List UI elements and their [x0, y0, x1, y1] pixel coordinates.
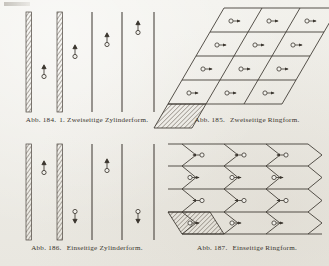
hatched-band	[57, 12, 63, 112]
figure-abb-184: Abb. 184.1.Zweiseitige Zylinderform.	[8, 10, 166, 118]
cell-marker-right	[215, 43, 226, 47]
cell-marker-right	[230, 175, 241, 179]
figure-caption-abb-187: Abb. 187.Einseitige Ringform.	[168, 245, 326, 252]
cell-marker-right	[239, 67, 250, 71]
hatched-band	[26, 144, 32, 240]
figure-title: Einseitige Ringform.	[232, 244, 297, 252]
cell-marker-right	[188, 175, 199, 179]
cell-marker-right	[263, 91, 274, 95]
flow-marker-down	[136, 209, 140, 223]
cell-marker-right	[277, 67, 288, 71]
figure-number: Abb. 187.	[197, 244, 227, 252]
figure-caption-abb-184: Abb. 184.1.Zweiseitige Zylinderform.	[8, 117, 166, 124]
cell-marker-right	[187, 91, 198, 95]
figure-title: Zweiseitige Ringform.	[230, 116, 299, 124]
figure-caption-abb-186: Abb. 186.Einseitige Zylinderform.	[8, 245, 166, 252]
hatched-band	[26, 12, 32, 112]
figure-number: Abb. 185.	[195, 116, 225, 124]
cell-marker-right	[291, 43, 302, 47]
flow-marker-up	[73, 45, 77, 59]
cell-marker-right	[253, 43, 264, 47]
cell-marker-right	[305, 19, 316, 23]
figure-caption-abb-185: Abb. 185.Zweiseitige Ringform.	[168, 117, 326, 124]
cell-marker-right	[267, 19, 278, 23]
cell-marker-group	[187, 19, 316, 95]
cell-marker-right	[225, 91, 236, 95]
figure-abb-186: Abb. 186.Einseitige Zylinderform.	[8, 142, 166, 250]
abb-185-drawing	[168, 8, 326, 118]
figure-number: Abb. 186.	[31, 244, 61, 252]
figure-index: 1.	[59, 116, 65, 124]
flow-marker-up	[42, 65, 46, 79]
hatched-band	[57, 144, 63, 240]
grid-lines	[168, 8, 329, 104]
scan-artifact	[4, 2, 30, 6]
figure-abb-187: Abb. 187.Einseitige Ringform.	[168, 140, 326, 252]
figure-abb-185: Abb. 185.Zweiseitige Ringform.	[168, 8, 326, 120]
cell-marker-right	[229, 19, 240, 23]
abb-186-drawing	[8, 142, 166, 242]
flow-marker-up	[42, 161, 46, 175]
abb-184-drawing	[8, 10, 166, 114]
cell-marker-right	[201, 67, 212, 71]
figure-title: Einseitige Zylinderform.	[67, 244, 143, 252]
figure-title: Zweiseitige Zylinderform.	[67, 116, 148, 124]
flow-marker-group	[42, 21, 140, 79]
flow-marker-group	[42, 159, 140, 223]
flow-marker-up	[136, 21, 140, 35]
flow-marker-up	[105, 159, 109, 173]
figure-number: Abb. 184.	[26, 116, 56, 124]
flow-marker-up	[105, 33, 109, 47]
cell-marker-right	[272, 175, 283, 179]
abb-187-drawing	[168, 140, 326, 246]
flow-marker-down	[73, 209, 77, 223]
